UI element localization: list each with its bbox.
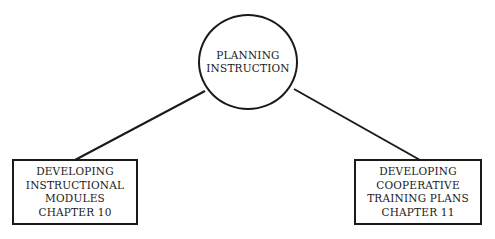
right-line-2: COOPERATIVE <box>376 179 460 193</box>
root-node-planning-instruction: PLANNING INSTRUCTION <box>198 14 298 110</box>
root-line-2: INSTRUCTION <box>206 62 289 76</box>
right-line-3: TRAINING PLANS <box>367 192 469 206</box>
connector-left <box>75 91 205 160</box>
child-node-cooperative-training-plans: DEVELOPING COOPERATIVE TRAINING PLANS CH… <box>354 159 482 225</box>
left-line-2: INSTRUCTIONAL <box>26 179 124 193</box>
left-line-4: CHAPTER 10 <box>38 206 111 220</box>
right-line-4: CHAPTER 11 <box>381 206 454 220</box>
child-node-instructional-modules: DEVELOPING INSTRUCTIONAL MODULES CHAPTER… <box>12 159 138 225</box>
connector-right <box>294 89 420 160</box>
right-line-1: DEVELOPING <box>379 165 457 179</box>
root-line-1: PLANNING <box>216 49 279 63</box>
left-line-3: MODULES <box>45 192 105 206</box>
left-line-1: DEVELOPING <box>36 165 114 179</box>
